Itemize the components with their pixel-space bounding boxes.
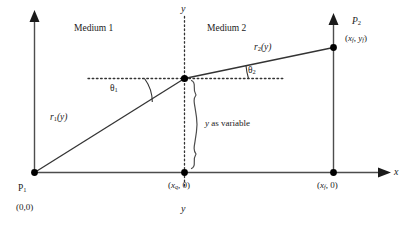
- y-axis-left-arrowhead: [30, 10, 40, 22]
- point-dot-xf-zero: [330, 169, 337, 176]
- ray-label-r1-arg: (y): [57, 112, 68, 122]
- point-label-p2-sub: 2: [358, 19, 361, 26]
- point-label-p2: P2: [352, 17, 361, 27]
- refraction-geometry-figure: y Medium 1 Medium 2 P2 (xf, yf) r2(y) θ2…: [0, 0, 411, 225]
- point-dot-p1: [31, 169, 38, 176]
- xf-coord-rest: , 0): [326, 180, 338, 190]
- point-dot-interface-intersection: [181, 75, 188, 82]
- angle-label-theta2-sub: 2: [253, 68, 256, 75]
- xq-coord-rest: , 0): [178, 180, 190, 190]
- vertical-line-xf: [329, 13, 339, 173]
- ray-label-r2-arg: (y): [261, 42, 272, 52]
- y-axis-bottom-label: y: [181, 204, 185, 214]
- y-as-variable-annotation: y as variable: [205, 119, 250, 128]
- x-axis-label: x: [394, 167, 398, 177]
- angle-label-theta1: θ1: [110, 84, 118, 94]
- point-label-p1: P1: [18, 184, 27, 194]
- vertical-line-xf-arrowhead: [329, 13, 339, 25]
- point-coord-xf-zero: (xf, 0): [317, 181, 338, 190]
- theta1-arc: [145, 79, 153, 103]
- medium-1-label: Medium 1: [74, 24, 113, 34]
- angle-label-theta2: θ2: [248, 66, 256, 76]
- point-coord-p1: (0,0): [16, 203, 33, 212]
- y-variable-brace: [192, 81, 198, 169]
- point-coord-p2: (xf, yf): [345, 34, 367, 43]
- y-axis-top-label: y: [181, 4, 185, 14]
- y-as-variable-text: as variable: [209, 118, 250, 128]
- point-dot-xq-zero: [181, 169, 188, 176]
- ray-label-r2: r2(y): [254, 43, 271, 53]
- ray-label-r1: r1(y): [50, 113, 67, 123]
- medium-2-label: Medium 2: [207, 24, 246, 34]
- point-coord-xq-zero: (xq, 0): [168, 181, 190, 190]
- point-dot-p2: [330, 44, 337, 51]
- x-axis: [34, 168, 391, 178]
- angle-label-theta1-sub: 1: [115, 86, 118, 93]
- p2-coord-close: ): [364, 33, 367, 43]
- x-axis-arrowhead: [378, 168, 391, 178]
- y-axis-left: [30, 10, 40, 173]
- point-label-p1-sub: 1: [23, 186, 26, 193]
